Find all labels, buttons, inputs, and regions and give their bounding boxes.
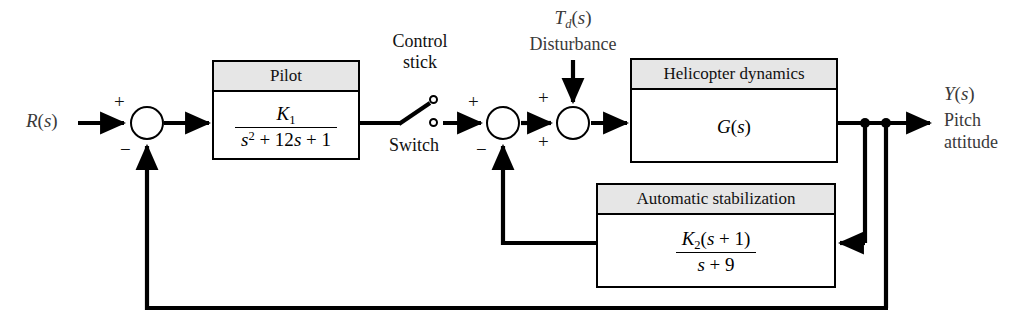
block-diagram-canvas: + − + − + + Pilot K1 s2 + 12s + 1 Helico… (0, 0, 1035, 329)
stabilization-transfer-function: K2(s + 1) s + 9 (676, 229, 757, 276)
switch-terminal-lower[interactable] (429, 118, 438, 127)
summing-junction-1 (130, 106, 164, 140)
summer2-plus-sign: + (468, 92, 479, 111)
control-stick-label-line1: Control (392, 31, 447, 51)
block-automatic-stabilization: Automatic stabilization K2(s + 1) s + 9 (596, 183, 836, 288)
wire-switch-blade (399, 103, 430, 124)
output-label-line1: Pitch (944, 110, 981, 130)
junction-dot-inner (860, 118, 870, 128)
output-label-line2: attitude (944, 132, 998, 152)
junction-dot-outer (881, 118, 891, 128)
switch-label: Switch (389, 135, 439, 155)
wire-layer (0, 0, 1035, 329)
switch-terminal-upper[interactable] (429, 95, 438, 104)
block-pilot-body: K1 s2 + 12s + 1 (214, 92, 358, 162)
block-helicopter-dynamics: Helicopter dynamics G(s) (630, 58, 838, 163)
block-helicopter-header: Helicopter dynamics (632, 60, 836, 90)
pilot-denominator: s2 + 12s + 1 (235, 127, 337, 150)
input-signal-label: R(s) (26, 111, 58, 131)
output-signal-label: Y(s) (944, 84, 975, 104)
control-stick-label-line2: stick (403, 52, 437, 72)
summer1-minus-sign: − (120, 140, 131, 159)
disturbance-symbol-label: Td(s) (555, 8, 592, 31)
stabilization-denominator: s + 9 (676, 252, 757, 275)
summing-junction-3 (556, 106, 590, 140)
block-pilot: Pilot K1 s2 + 12s + 1 (212, 60, 360, 160)
summer1-plus-sign: + (114, 92, 125, 111)
block-helicopter-body: G(s) (632, 90, 836, 164)
disturbance-text-label: Disturbance (530, 34, 617, 54)
block-stabilization-header: Automatic stabilization (598, 185, 834, 215)
pilot-transfer-function: K1 s2 + 12s + 1 (235, 104, 337, 151)
block-pilot-header: Pilot (214, 62, 358, 92)
summer3-plus-sign-top: + (538, 88, 549, 107)
pilot-numerator: K1 (235, 104, 337, 128)
block-stabilization-body: K2(s + 1) s + 9 (598, 215, 834, 289)
stabilization-numerator: K2(s + 1) (676, 229, 757, 253)
helicopter-transfer-function: G(s) (717, 117, 751, 137)
summer2-minus-sign: − (476, 140, 487, 159)
summing-junction-2 (486, 106, 520, 140)
summer3-plus-sign-bottom: + (538, 132, 549, 151)
